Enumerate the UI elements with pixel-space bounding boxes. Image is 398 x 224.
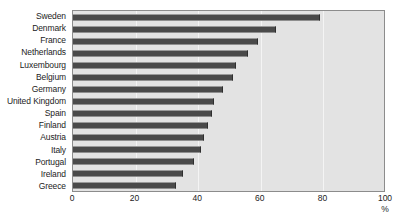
bar-slot — [73, 83, 384, 95]
bar-chart: SwedenDenmarkFranceNetherlandsLuxembourg… — [0, 0, 398, 224]
bar — [73, 14, 320, 21]
category-label: Austria — [0, 131, 70, 143]
x-axis-tick-label: 20 — [130, 193, 139, 203]
bar-slot — [73, 47, 384, 59]
category-label: Ireland — [0, 168, 70, 180]
bar-slot — [73, 59, 384, 71]
bar-slot — [73, 11, 384, 23]
x-axis-tick-label: 0 — [70, 193, 75, 203]
bar-slot — [73, 119, 384, 131]
bar-slot — [73, 35, 384, 47]
category-label: Spain — [0, 107, 70, 119]
chart-title-cropped — [0, 0, 398, 7]
bar-slot — [73, 179, 384, 191]
bar-slot — [73, 107, 384, 119]
bar-slot — [73, 23, 384, 35]
bar — [73, 74, 233, 81]
category-label: Denmark — [0, 22, 70, 34]
bar — [73, 122, 208, 129]
category-label: United Kingdom — [0, 95, 70, 107]
bar-slot — [73, 71, 384, 83]
category-label: Luxembourg — [0, 59, 70, 71]
bar — [73, 38, 258, 45]
bars-layer — [73, 11, 384, 191]
x-axis-tick-labels: 020406080100 — [72, 193, 385, 207]
bar — [73, 134, 204, 141]
bar-slot — [73, 95, 384, 107]
x-axis-tick-label: 80 — [318, 193, 327, 203]
x-axis-tick-label: 60 — [255, 193, 264, 203]
category-label: Greece — [0, 180, 70, 192]
bar — [73, 86, 223, 93]
bar-slot — [73, 167, 384, 179]
bar-slot — [73, 143, 384, 155]
bar — [73, 170, 183, 177]
bar-slot — [73, 155, 384, 167]
bar — [73, 146, 201, 153]
x-axis-tick-label: 40 — [192, 193, 201, 203]
category-label: Portugal — [0, 156, 70, 168]
category-label: Finland — [0, 119, 70, 131]
bar — [73, 62, 236, 69]
bar — [73, 50, 248, 57]
category-label: Belgium — [0, 71, 70, 83]
bar — [73, 110, 212, 117]
bar — [73, 26, 276, 33]
bar — [73, 98, 214, 105]
x-axis-tick-label: 100 — [378, 193, 392, 203]
category-label: Sweden — [0, 10, 70, 22]
bar — [73, 182, 176, 189]
category-label: Italy — [0, 144, 70, 156]
category-axis-labels: SwedenDenmarkFranceNetherlandsLuxembourg… — [0, 10, 70, 192]
category-label: Netherlands — [0, 46, 70, 58]
bar-slot — [73, 131, 384, 143]
plot-area — [72, 10, 385, 192]
category-label: France — [0, 34, 70, 46]
bar — [73, 158, 194, 165]
category-label: Germany — [0, 83, 70, 95]
x-axis-unit-label: % — [381, 204, 389, 214]
